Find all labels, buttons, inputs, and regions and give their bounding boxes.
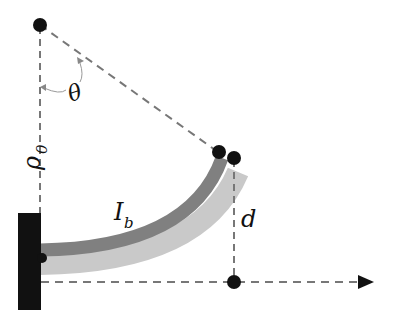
fixed-wall bbox=[18, 213, 41, 310]
theta-label: θ bbox=[65, 79, 85, 107]
current-subscript: b bbox=[124, 214, 134, 232]
beam-diagram: θ ρ 0 I b d bbox=[0, 0, 394, 326]
deflection-label: d bbox=[241, 205, 256, 233]
deflection-base-point bbox=[227, 275, 241, 289]
angle-arc-upper bbox=[80, 63, 82, 82]
current-label: I bbox=[113, 198, 124, 226]
wall-anchor-point bbox=[37, 253, 47, 263]
rho-label-group: ρ 0 bbox=[18, 144, 51, 171]
pivot-point bbox=[33, 18, 47, 32]
rho-subscript: 0 bbox=[33, 144, 51, 154]
rho-label: ρ bbox=[18, 156, 46, 171]
beam-tip-outer-point bbox=[227, 151, 241, 165]
arrow-head-icon bbox=[358, 275, 374, 289]
beam-tip-inner-point bbox=[212, 145, 226, 159]
angle-arc bbox=[44, 88, 66, 92]
